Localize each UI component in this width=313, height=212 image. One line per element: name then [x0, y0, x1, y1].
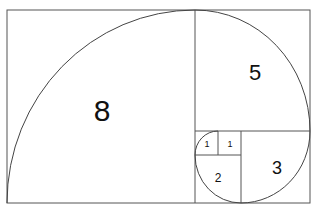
fibonacci-spiral-diagram: 8 5 3 2 1 1 [0, 0, 313, 212]
square-label-1a: 1 [204, 139, 209, 149]
outer-rectangle [7, 10, 310, 203]
square-label-1b: 1 [227, 139, 232, 149]
square-label-5: 5 [249, 60, 261, 85]
spiral-arc [7, 10, 310, 203]
square-label-8: 8 [94, 94, 111, 127]
square-label-2: 2 [215, 171, 222, 185]
square-label-3: 3 [272, 158, 282, 178]
